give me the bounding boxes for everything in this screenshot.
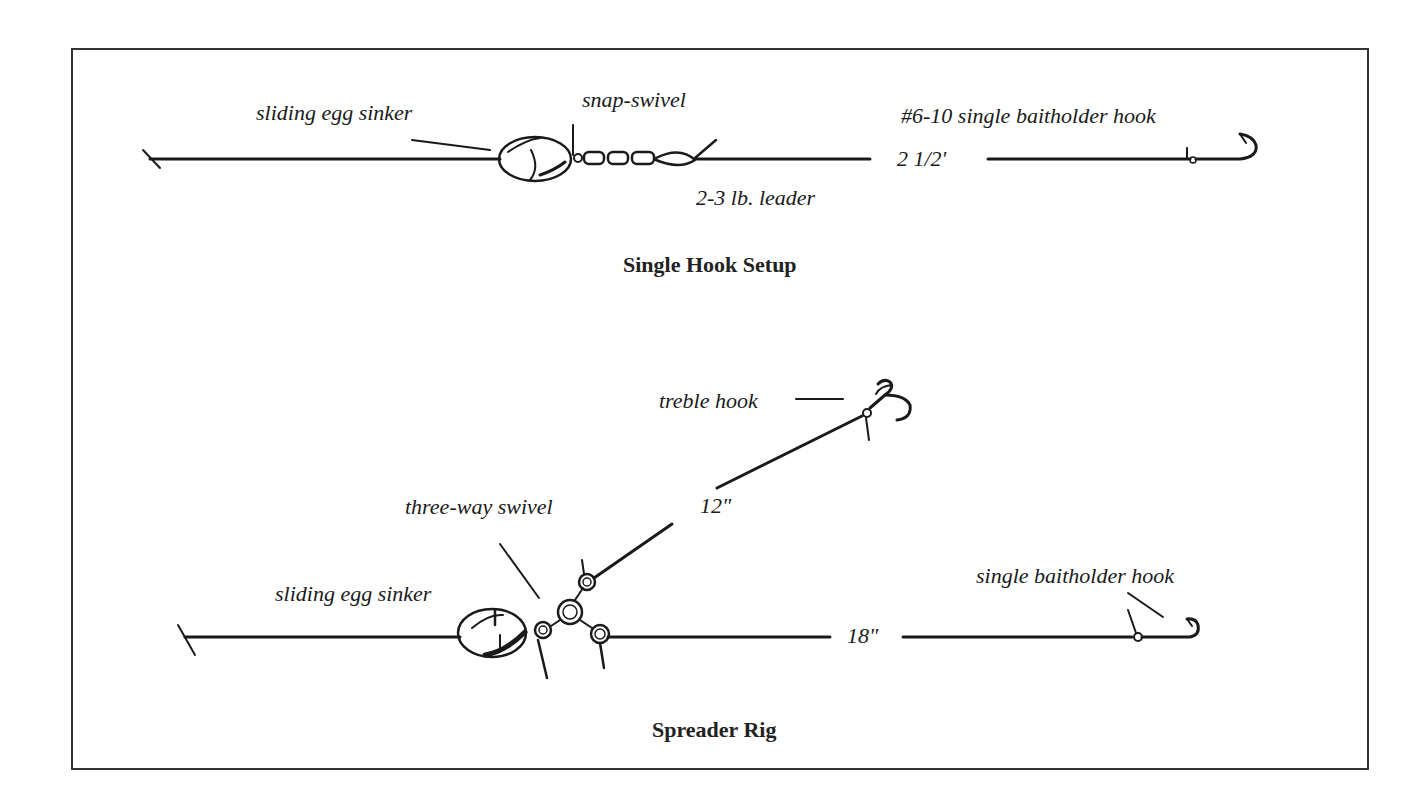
label-length-2-1-2: 2 1/2' bbox=[897, 148, 946, 170]
caption-single-hook-setup: Single Hook Setup bbox=[623, 254, 797, 276]
three-way-swivel-icon bbox=[535, 560, 609, 678]
baitholder-hook-icon bbox=[1187, 134, 1256, 163]
label-sliding-egg-sinker: sliding egg sinker bbox=[256, 102, 412, 124]
snap-swivel-icon bbox=[573, 125, 716, 165]
label-snap-swivel: snap-swivel bbox=[582, 89, 686, 111]
label-treble-hook: treble hook bbox=[659, 390, 758, 412]
label-three-way-swivel: three-way swivel bbox=[405, 496, 553, 518]
egg-sinker-icon bbox=[499, 137, 571, 181]
treble-hook-icon bbox=[863, 380, 910, 440]
label-sliding-egg-sinker: sliding egg sinker bbox=[275, 583, 431, 605]
label-leader: 2-3 lb. leader bbox=[696, 187, 815, 209]
label-length-12: 12" bbox=[700, 495, 731, 517]
egg-sinker-icon bbox=[458, 609, 526, 657]
baitholder-hook-icon bbox=[1128, 610, 1198, 641]
label-baitholder-hook: single baitholder hook bbox=[976, 565, 1174, 587]
label-length-18: 18" bbox=[847, 625, 878, 647]
label-baitholder-hook: #6-10 single baitholder hook bbox=[901, 105, 1156, 127]
spreader-rig bbox=[178, 380, 1198, 678]
caption-spreader-rig: Spreader Rig bbox=[652, 719, 776, 741]
single-hook-rig bbox=[143, 125, 1256, 181]
